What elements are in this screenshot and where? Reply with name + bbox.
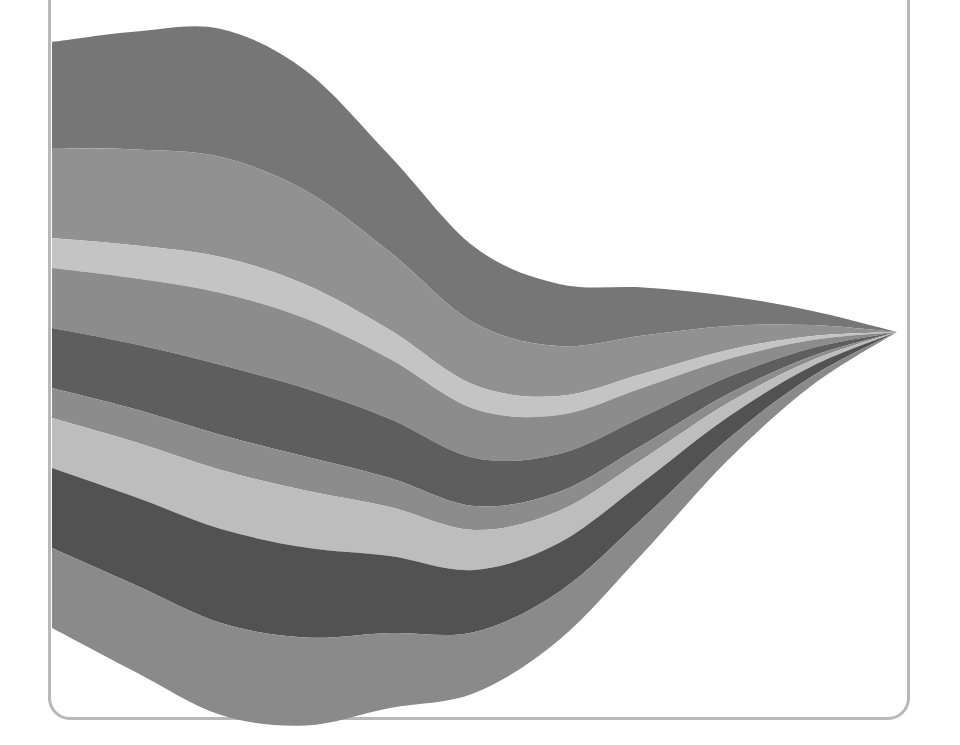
plot-area (0, 0, 960, 745)
figure-canvas (0, 0, 960, 745)
streamgraph-svg (0, 0, 960, 745)
